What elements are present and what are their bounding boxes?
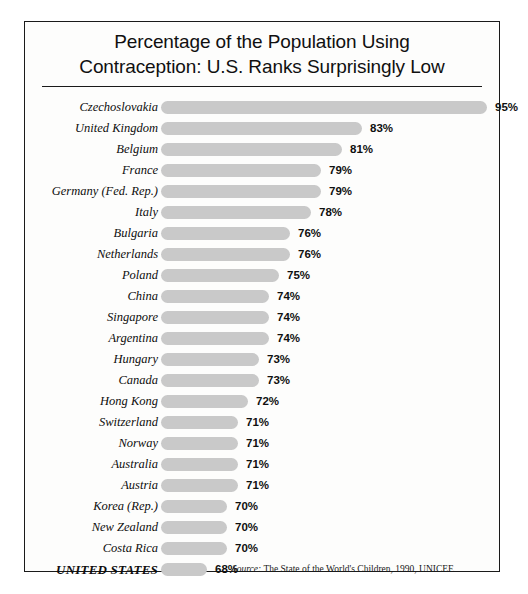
bar-row: New Zealand70% bbox=[25, 517, 499, 538]
bar-category-label: New Zealand bbox=[25, 517, 158, 538]
bar-category-label: Czechoslovakia bbox=[25, 97, 158, 118]
title-divider bbox=[42, 86, 482, 87]
bar-fill bbox=[161, 206, 311, 219]
bar-track bbox=[161, 164, 495, 177]
bar-value-label: 83% bbox=[370, 118, 393, 139]
bar-track bbox=[161, 353, 495, 366]
bar-category-label: Germany (Fed. Rep.) bbox=[25, 181, 158, 202]
bar-fill bbox=[161, 290, 269, 303]
bar-row: Austria71% bbox=[25, 475, 499, 496]
bar-row: Norway71% bbox=[25, 433, 499, 454]
bar-value-label: 70% bbox=[235, 517, 258, 538]
bar-value-label: 71% bbox=[246, 475, 269, 496]
bar-fill bbox=[161, 458, 238, 471]
bar-fill bbox=[161, 395, 248, 408]
bar-category-label: Poland bbox=[25, 265, 158, 286]
bar-category-label: Hungary bbox=[25, 349, 158, 370]
bar-track bbox=[161, 248, 495, 261]
bar-value-label: 74% bbox=[277, 307, 300, 328]
bar-category-label: Italy bbox=[25, 202, 158, 223]
bar-category-label: United Kingdom bbox=[25, 118, 158, 139]
bar-row: Hungary73% bbox=[25, 349, 499, 370]
chart-title: Percentage of the Population Using Contr… bbox=[25, 22, 499, 79]
bar-row: UNITED STATES68%Source: The State of the… bbox=[25, 559, 499, 580]
bar-track bbox=[161, 500, 495, 513]
bar-value-label: 71% bbox=[246, 433, 269, 454]
bar-category-label: Argentina bbox=[25, 328, 158, 349]
bar-category-label: Austria bbox=[25, 475, 158, 496]
bar-track bbox=[161, 101, 495, 114]
bar-row: Bulgaria76% bbox=[25, 223, 499, 244]
bar-row: Netherlands76% bbox=[25, 244, 499, 265]
bar-fill bbox=[161, 164, 321, 177]
bar-row: Germany (Fed. Rep.)79% bbox=[25, 181, 499, 202]
bar-track bbox=[161, 143, 495, 156]
bar-fill bbox=[161, 500, 227, 513]
chart-frame: Percentage of the Population Using Contr… bbox=[24, 21, 500, 572]
bar-value-label: 95% bbox=[495, 97, 518, 118]
bar-chart-plot-area: Czechoslovakia95%United Kingdom83%Belgiu… bbox=[25, 97, 499, 580]
bar-track bbox=[161, 374, 495, 387]
bar-fill bbox=[161, 227, 290, 240]
bar-row: United Kingdom83% bbox=[25, 118, 499, 139]
bar-fill bbox=[161, 542, 227, 555]
bar-category-label: Korea (Rep.) bbox=[25, 496, 158, 517]
bar-track bbox=[161, 269, 495, 282]
bar-fill bbox=[161, 143, 342, 156]
bar-track bbox=[161, 332, 495, 345]
bar-value-label: 71% bbox=[246, 454, 269, 475]
bar-category-label: Bulgaria bbox=[25, 223, 158, 244]
chart-title-line-1: Percentage of the Population Using bbox=[41, 29, 483, 54]
bar-fill bbox=[161, 521, 227, 534]
bar-row: Korea (Rep.)70% bbox=[25, 496, 499, 517]
chart-title-line-2: Contraception: U.S. Ranks Surprisingly L… bbox=[41, 54, 483, 79]
bar-fill bbox=[161, 269, 279, 282]
bar-value-label: 70% bbox=[235, 496, 258, 517]
bar-value-label: 79% bbox=[329, 160, 352, 181]
bar-value-label: 78% bbox=[319, 202, 342, 223]
bar-value-label: 76% bbox=[298, 223, 321, 244]
bar-value-label: 73% bbox=[267, 349, 290, 370]
bar-category-label: Netherlands bbox=[25, 244, 158, 265]
bar-category-label: UNITED STATES bbox=[25, 559, 158, 580]
bar-fill bbox=[161, 332, 269, 345]
bar-track bbox=[161, 479, 495, 492]
bar-category-label: Norway bbox=[25, 433, 158, 454]
bar-row: France79% bbox=[25, 160, 499, 181]
bar-fill bbox=[161, 563, 207, 576]
bar-value-label: 75% bbox=[287, 265, 310, 286]
bar-row: Czechoslovakia95% bbox=[25, 97, 499, 118]
source-note: Source: The State of the World's Childre… bbox=[232, 559, 455, 580]
bar-category-label: Costa Rica bbox=[25, 538, 158, 559]
bar-row: Hong Kong72% bbox=[25, 391, 499, 412]
bar-value-label: 72% bbox=[256, 391, 279, 412]
bar-row: China74% bbox=[25, 286, 499, 307]
bar-row: Australia71% bbox=[25, 454, 499, 475]
bar-category-label: Australia bbox=[25, 454, 158, 475]
bar-category-label: Singapore bbox=[25, 307, 158, 328]
bar-row: Belgium81% bbox=[25, 139, 499, 160]
bar-category-label: Switzerland bbox=[25, 412, 158, 433]
bar-row: Switzerland71% bbox=[25, 412, 499, 433]
bar-track bbox=[161, 290, 495, 303]
bar-category-label: France bbox=[25, 160, 158, 181]
bar-value-label: 74% bbox=[277, 286, 300, 307]
bar-value-label: 74% bbox=[277, 328, 300, 349]
bar-track bbox=[161, 437, 495, 450]
bar-fill bbox=[161, 185, 321, 198]
bar-row: Poland75% bbox=[25, 265, 499, 286]
bar-track bbox=[161, 395, 495, 408]
bar-row: Costa Rica70% bbox=[25, 538, 499, 559]
bar-fill bbox=[161, 479, 238, 492]
bar-fill bbox=[161, 248, 290, 261]
bar-fill bbox=[161, 353, 259, 366]
bar-fill bbox=[161, 374, 259, 387]
bar-track bbox=[161, 122, 495, 135]
bar-category-label: China bbox=[25, 286, 158, 307]
bar-track bbox=[161, 227, 495, 240]
source-text: The State of the World's Children, 1990,… bbox=[261, 564, 455, 574]
bar-value-label: 79% bbox=[329, 181, 352, 202]
bar-category-label: Canada bbox=[25, 370, 158, 391]
bar-value-label: 81% bbox=[350, 139, 373, 160]
bar-track bbox=[161, 458, 495, 471]
